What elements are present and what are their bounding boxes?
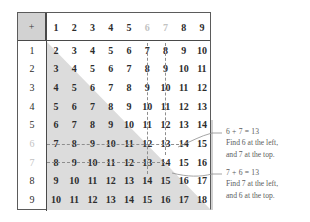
callout-second-line2: and 6 at the top.	[226, 190, 278, 201]
sum-cell-r5-c4: 9	[102, 116, 120, 135]
sum-cell-r9-c1: 10	[47, 190, 65, 209]
sum-cell-r3-c3: 6	[83, 78, 101, 97]
sum-cell-r8-c8: 16	[175, 172, 193, 191]
sum-cell-r9-c7: 16	[156, 190, 174, 209]
row-guide-7	[47, 162, 165, 163]
sum-cell-r8-c2: 10	[65, 172, 83, 191]
sum-cell-r1-c3: 4	[83, 41, 101, 60]
column-header-2: 2	[65, 13, 83, 41]
row-header-4: 4	[18, 97, 46, 116]
sum-cell-r7-c8: 15	[175, 153, 193, 172]
sum-cell-r9-c3: 12	[83, 190, 101, 209]
callout-second-equation: 7 + 6 = 13	[226, 167, 278, 178]
sum-cell-r8-c4: 12	[102, 172, 120, 191]
sum-cell-r9-c2: 11	[65, 190, 83, 209]
column-header-9: 9	[193, 13, 211, 41]
sum-cell-r1-c4: 5	[102, 41, 120, 60]
row-header-1: 1	[18, 41, 46, 60]
column-header-6: 6	[138, 13, 156, 41]
column-header-8: 8	[175, 13, 193, 41]
sum-cell-r4-c1: 5	[47, 97, 65, 116]
sum-cell-r4-c8: 12	[175, 97, 193, 116]
column-header-1: 1	[47, 13, 65, 41]
callout-second-line1: Find 7 at the left,	[226, 178, 278, 189]
sum-cell-r5-c3: 8	[83, 116, 101, 135]
sum-cell-r5-c1: 6	[47, 116, 65, 135]
sum-cell-r2-c3: 5	[83, 60, 101, 79]
sum-cell-r5-c5: 10	[120, 116, 138, 135]
sum-cell-r5-c8: 13	[175, 116, 193, 135]
sum-cell-r8-c6: 14	[138, 172, 156, 191]
figure-canvas: + 23456789103456789101145678910111256789…	[0, 0, 310, 222]
row-header-2: 2	[18, 60, 46, 79]
sum-cell-r9-c9: 18	[193, 190, 211, 209]
sum-cell-r6-c9: 15	[193, 134, 211, 153]
sum-cell-r9-c5: 14	[120, 190, 138, 209]
sum-cell-r5-c2: 7	[65, 116, 83, 135]
sum-cell-r2-c9: 11	[193, 60, 211, 79]
column-header-7: 7	[156, 13, 174, 41]
sum-cell-r1-c2: 3	[65, 41, 83, 60]
callout-first-line2: and 7 at the top.	[226, 149, 278, 160]
column-header-4: 4	[102, 13, 120, 41]
column-header-3: 3	[83, 13, 101, 41]
callout-first-equation: 6 + 7 = 13	[226, 126, 278, 137]
sum-cell-r7-c9: 16	[193, 153, 211, 172]
column-header-5: 5	[120, 13, 138, 41]
callout-first: 6 + 7 = 13 Find 6 at the left, and 7 at …	[226, 126, 278, 160]
table-cells: 2345678910345678910114567891011125678910…	[18, 13, 210, 209]
callout-second: 7 + 6 = 13 Find 7 at the left, and 6 at …	[226, 167, 278, 201]
sum-cell-r4-c4: 8	[102, 97, 120, 116]
sum-cell-r8-c5: 13	[120, 172, 138, 191]
sum-cell-r3-c8: 11	[175, 78, 193, 97]
sum-cell-r2-c5: 7	[120, 60, 138, 79]
sum-cell-r4-c9: 13	[193, 97, 211, 116]
addition-table: + 23456789103456789101145678910111256789…	[17, 12, 211, 210]
sum-cell-r1-c1: 2	[47, 41, 65, 60]
sum-cell-r1-c9: 10	[193, 41, 211, 60]
sum-cell-r2-c1: 3	[47, 60, 65, 79]
sum-cell-r9-c4: 13	[102, 190, 120, 209]
sum-cell-r3-c9: 12	[193, 78, 211, 97]
sum-cell-r1-c8: 9	[175, 41, 193, 60]
sum-cell-r1-c5: 6	[120, 41, 138, 60]
sum-cell-r9-c6: 15	[138, 190, 156, 209]
sum-cell-r3-c1: 4	[47, 78, 65, 97]
sum-cell-r2-c4: 6	[102, 60, 120, 79]
column-guide-7	[165, 43, 166, 155]
row-header-3: 3	[18, 78, 46, 97]
row-header-8: 8	[18, 172, 46, 191]
row-guide-6	[47, 144, 184, 145]
sum-cell-r2-c2: 4	[65, 60, 83, 79]
sum-cell-r9-c8: 17	[175, 190, 193, 209]
sum-cell-r8-c9: 17	[193, 172, 211, 191]
sum-cell-r8-c1: 9	[47, 172, 65, 191]
sum-cell-r5-c9: 14	[193, 116, 211, 135]
sum-cell-r4-c2: 6	[65, 97, 83, 116]
sum-cell-r8-c3: 11	[83, 172, 101, 191]
row-header-7: 7	[18, 153, 46, 172]
sum-cell-r3-c5: 8	[120, 78, 138, 97]
sum-cell-r3-c2: 5	[65, 78, 83, 97]
sum-cell-r4-c3: 7	[83, 97, 101, 116]
sum-cell-r3-c4: 7	[102, 78, 120, 97]
row-header-9: 9	[18, 190, 46, 209]
sum-cell-r4-c5: 9	[120, 97, 138, 116]
row-header-6: 6	[18, 134, 46, 153]
column-guide-6	[147, 43, 148, 174]
callout-first-line1: Find 6 at the left,	[226, 137, 278, 148]
row-header-5: 5	[18, 116, 46, 135]
sum-cell-r8-c7: 15	[156, 172, 174, 191]
sum-cell-r2-c8: 10	[175, 60, 193, 79]
